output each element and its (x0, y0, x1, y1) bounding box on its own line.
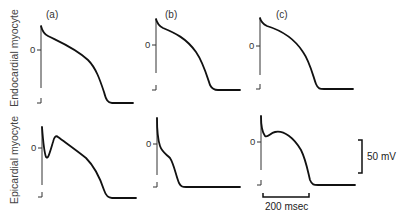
zero-label-epi-c: 0 (250, 136, 255, 147)
time-scale-label: 200 msec (265, 201, 308, 212)
traces-canvas (0, 0, 400, 214)
action-potential-figure: Endocardial myocyte Epicardial myocyte (… (0, 0, 400, 214)
panel-label-b: (b) (165, 9, 177, 20)
zero-label-endo-c: 0 (249, 40, 254, 51)
voltage-scale-label: 50 mV (367, 151, 396, 162)
panel-label-a: (a) (46, 9, 58, 20)
voltage-scale-bar (358, 140, 362, 173)
trace-endo-a (41, 26, 133, 103)
zero-label-epi-b: 0 (146, 138, 151, 149)
baseline-tick-endo-a (37, 98, 41, 103)
trace-epi-a (42, 127, 136, 198)
trace-endo-b (156, 19, 240, 90)
trace-endo-c (260, 18, 353, 89)
time-scale-bar (263, 193, 309, 197)
row-label-epicardial: Epicardial myocyte (8, 116, 20, 204)
trace-epi-b (157, 118, 240, 187)
trace-epi-c (261, 116, 355, 185)
panel-label-c: (c) (276, 9, 288, 20)
zero-label-endo-a: 0 (30, 44, 35, 55)
zero-label-endo-b: 0 (145, 39, 150, 50)
row-label-endocardial: Endocardial myocyte (8, 9, 20, 106)
zero-label-epi-a: 0 (31, 142, 36, 153)
